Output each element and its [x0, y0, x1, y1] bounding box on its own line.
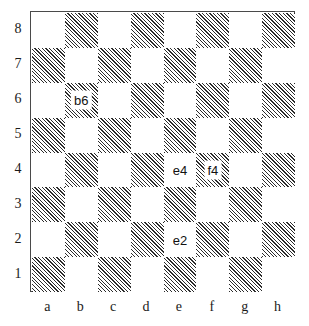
board-square-g4[interactable]	[229, 153, 262, 188]
board-square-h3[interactable]	[262, 187, 295, 222]
board-square-c3[interactable]	[98, 187, 131, 222]
board-square-h8[interactable]	[262, 13, 295, 48]
board-square-h7[interactable]	[262, 48, 295, 83]
board-square-e5[interactable]	[164, 118, 197, 153]
board-square-g1[interactable]	[229, 257, 262, 292]
board-square-d4[interactable]	[131, 153, 164, 188]
board-square-a4[interactable]	[32, 153, 65, 188]
board-square-e2[interactable]: e2	[164, 222, 197, 257]
square-label-f4: f4	[204, 160, 221, 179]
board-square-a2[interactable]	[32, 222, 65, 257]
board-square-b2[interactable]	[65, 222, 98, 257]
board-square-f8[interactable]	[196, 13, 229, 48]
chessboard-frame: b6e4f4e2	[30, 11, 295, 292]
board-square-f4[interactable]: f4	[196, 153, 229, 188]
board-square-d6[interactable]	[131, 83, 164, 118]
board-square-h1[interactable]	[262, 257, 295, 292]
board-square-g3[interactable]	[229, 187, 262, 222]
board-square-g7[interactable]	[229, 48, 262, 83]
board-square-d7[interactable]	[131, 48, 164, 83]
rank-label-2: 2	[8, 221, 28, 256]
board-square-b7[interactable]	[65, 48, 98, 83]
rank-coordinate-strip: 87654321	[8, 12, 28, 291]
file-label-f: f	[195, 296, 228, 318]
board-square-e4[interactable]: e4	[164, 153, 197, 188]
board-square-b6[interactable]: b6	[65, 83, 98, 118]
board-square-c2[interactable]	[98, 222, 131, 257]
board-square-h4[interactable]	[262, 153, 295, 188]
file-label-a: a	[31, 296, 64, 318]
chessboard-grid: b6e4f4e2	[32, 13, 295, 292]
board-square-c7[interactable]	[98, 48, 131, 83]
board-square-c1[interactable]	[98, 257, 131, 292]
board-square-b1[interactable]	[65, 257, 98, 292]
board-square-e3[interactable]	[164, 187, 197, 222]
rank-label-1: 1	[8, 256, 28, 291]
board-square-b4[interactable]	[65, 153, 98, 188]
board-square-g5[interactable]	[229, 118, 262, 153]
board-square-h6[interactable]	[262, 83, 295, 118]
board-square-e1[interactable]	[164, 257, 197, 292]
rank-label-5: 5	[8, 117, 28, 152]
board-square-g6[interactable]	[229, 83, 262, 118]
file-label-d: d	[130, 296, 163, 318]
board-square-h2[interactable]	[262, 222, 295, 257]
board-square-d8[interactable]	[131, 13, 164, 48]
rank-label-3: 3	[8, 186, 28, 221]
file-label-e: e	[163, 296, 196, 318]
board-square-c4[interactable]	[98, 153, 131, 188]
board-square-g2[interactable]	[229, 222, 262, 257]
board-square-e8[interactable]	[164, 13, 197, 48]
chess-diagram: 87654321 b6e4f4e2 abcdefgh	[0, 0, 309, 326]
board-square-c6[interactable]	[98, 83, 131, 118]
board-square-d3[interactable]	[131, 187, 164, 222]
board-square-f6[interactable]	[196, 83, 229, 118]
board-square-f2[interactable]	[196, 222, 229, 257]
square-label-e4: e4	[170, 160, 190, 179]
board-square-f1[interactable]	[196, 257, 229, 292]
board-square-d5[interactable]	[131, 118, 164, 153]
board-square-a5[interactable]	[32, 118, 65, 153]
board-square-a1[interactable]	[32, 257, 65, 292]
board-square-e6[interactable]	[164, 83, 197, 118]
file-label-g: g	[228, 296, 261, 318]
square-label-e2: e2	[170, 230, 190, 249]
board-square-f7[interactable]	[196, 48, 229, 83]
board-square-a8[interactable]	[32, 13, 65, 48]
board-square-d2[interactable]	[131, 222, 164, 257]
board-square-d1[interactable]	[131, 257, 164, 292]
board-square-c5[interactable]	[98, 118, 131, 153]
board-square-f3[interactable]	[196, 187, 229, 222]
board-square-g8[interactable]	[229, 13, 262, 48]
board-square-a6[interactable]	[32, 83, 65, 118]
rank-label-7: 7	[8, 47, 28, 82]
file-coordinate-strip: abcdefgh	[31, 296, 294, 318]
board-square-a7[interactable]	[32, 48, 65, 83]
rank-label-8: 8	[8, 12, 28, 47]
rank-label-4: 4	[8, 152, 28, 187]
rank-label-6: 6	[8, 82, 28, 117]
board-square-b5[interactable]	[65, 118, 98, 153]
board-square-e7[interactable]	[164, 48, 197, 83]
board-square-f5[interactable]	[196, 118, 229, 153]
board-square-b3[interactable]	[65, 187, 98, 222]
file-label-h: h	[261, 296, 294, 318]
square-label-b6: b6	[71, 91, 91, 110]
board-square-h5[interactable]	[262, 118, 295, 153]
board-square-c8[interactable]	[98, 13, 131, 48]
board-square-a3[interactable]	[32, 187, 65, 222]
file-label-b: b	[64, 296, 97, 318]
file-label-c: c	[97, 296, 130, 318]
board-square-b8[interactable]	[65, 13, 98, 48]
